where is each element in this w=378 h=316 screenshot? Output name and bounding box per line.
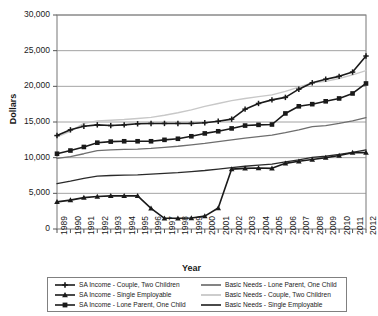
series-marker — [270, 122, 275, 127]
legend-item-label: SA Income - Single Employable — [76, 290, 171, 300]
series-marker — [323, 99, 328, 104]
series-marker — [216, 129, 221, 134]
legend-item-label: Basic Needs - Couple, Two Children — [222, 290, 331, 300]
x-tick-label: 1994 — [128, 216, 137, 235]
legend-item[interactable]: Basic Needs - Single Employable — [200, 300, 337, 310]
y-tick-label: 30,000 — [0, 10, 50, 19]
series-marker — [149, 139, 154, 144]
legend-swatch-icon — [200, 280, 222, 290]
x-tick-label: 2000 — [208, 216, 217, 235]
x-tick-label: 2012 — [369, 216, 378, 235]
x-tick-label: 2003 — [248, 216, 257, 235]
legend-swatch-icon — [54, 280, 76, 290]
series-marker — [82, 145, 87, 150]
y-tick-label: 15,000 — [0, 117, 50, 126]
series-marker — [337, 96, 342, 101]
series-marker — [310, 102, 315, 107]
chart-legend: SA Income - Couple, Two ChildrenSA Incom… — [47, 277, 347, 312]
series-marker — [55, 151, 60, 156]
series-marker — [135, 139, 140, 144]
legend-swatch-icon — [54, 300, 76, 310]
series-marker — [162, 138, 167, 143]
y-tick-label: 20,000 — [0, 81, 50, 90]
legend-item[interactable]: Basic Needs - Lone Parent, One Child — [200, 280, 337, 290]
x-tick-label: 1993 — [114, 216, 123, 235]
x-tick-label: 1992 — [101, 216, 110, 235]
x-tick-label: 1999 — [195, 216, 204, 235]
x-tick-label: 2007 — [302, 216, 311, 235]
x-tick-label: 2001 — [222, 216, 231, 235]
x-tick-label: 2005 — [275, 216, 284, 235]
legend-item-label: SA Income - Couple, Two Children — [76, 280, 180, 290]
x-tick-label: 1996 — [154, 216, 163, 235]
series-marker — [364, 81, 369, 86]
series-marker — [256, 123, 261, 128]
x-tick-label: 1989 — [60, 216, 69, 235]
legend-item-label: SA Income - Lone Parent, One Child — [76, 300, 186, 310]
legend-swatch-icon — [200, 300, 222, 310]
x-tick-label: 2002 — [235, 216, 244, 235]
series-marker — [68, 148, 73, 153]
series-marker — [122, 139, 127, 144]
y-tick-label: 25,000 — [0, 46, 50, 55]
legend-swatch-icon — [54, 290, 76, 300]
legend-column-right: Basic Needs - Lone Parent, One ChildBasi… — [200, 280, 337, 310]
x-axis-title: Year — [182, 263, 201, 273]
series-marker — [176, 136, 181, 141]
legend-item[interactable]: SA Income - Lone Parent, One Child — [54, 300, 186, 310]
series-marker — [350, 91, 355, 96]
x-tick-label: 1997 — [168, 216, 177, 235]
legend-item[interactable]: SA Income - Single Employable — [54, 290, 186, 300]
x-tick-label: 2004 — [262, 216, 271, 235]
y-tick-label: 5,000 — [0, 188, 50, 197]
series-marker — [243, 123, 248, 128]
series-marker — [229, 126, 234, 131]
series-marker — [283, 111, 288, 116]
series-marker — [202, 131, 207, 136]
series-marker — [297, 104, 302, 109]
x-tick-label: 2010 — [343, 216, 352, 235]
x-tick-label: 2006 — [289, 216, 298, 235]
legend-item[interactable]: SA Income - Couple, Two Children — [54, 280, 186, 290]
x-tick-label: 1991 — [87, 216, 96, 235]
y-tick-label: 10,000 — [0, 153, 50, 162]
x-tick-label: 2008 — [316, 216, 325, 235]
legend-item-label: Basic Needs - Single Employable — [222, 300, 323, 310]
series-marker — [189, 134, 194, 139]
x-tick-label: 1990 — [74, 216, 83, 235]
legend-column-left: SA Income - Couple, Two ChildrenSA Incom… — [54, 280, 186, 310]
x-tick-label: 1998 — [181, 216, 190, 235]
series-marker — [95, 140, 100, 145]
x-tick-label: 1995 — [141, 216, 150, 235]
x-tick-label: 2011 — [356, 217, 365, 235]
legend-swatch-icon — [200, 290, 222, 300]
y-tick-label: 0 — [0, 224, 50, 233]
series-marker — [108, 139, 113, 144]
legend-item[interactable]: Basic Needs - Couple, Two Children — [200, 290, 337, 300]
x-tick-label: 2009 — [329, 216, 338, 235]
legend-item-label: Basic Needs - Lone Parent, One Child — [222, 280, 337, 290]
